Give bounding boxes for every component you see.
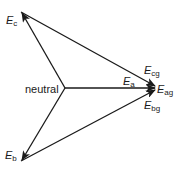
label-Eb: Eb: [5, 149, 17, 163]
label-Ecg: Ecg: [144, 64, 160, 78]
phasor-Ecg: [21, 12, 155, 86]
label-Ec: Ec: [6, 14, 17, 28]
label-Ea: Ea: [123, 75, 135, 89]
label-Eag: Eag: [157, 83, 173, 97]
phasor-diagram: Ec Eb neutral Ea Ecg Eag Ebg: [0, 0, 181, 174]
phasor-Ebg: [21, 90, 155, 161]
label-neutral: neutral: [25, 83, 59, 95]
label-Ebg: Ebg: [144, 99, 160, 113]
